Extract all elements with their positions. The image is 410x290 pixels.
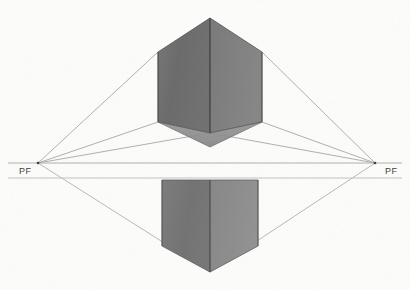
upper-cube-right-face [210,18,262,133]
vanishing-point-left-marker [37,162,40,165]
lower-cube [162,180,258,272]
perspective-construction-svg [0,0,410,290]
vanishing-point-left-label: PF [19,166,31,176]
vanishing-point-right-marker [374,162,377,165]
upper-cube [158,18,262,147]
upper-cube-left-face [158,18,210,133]
perspective-drawing-canvas: PF PF [0,0,410,290]
lower-cube-left-face [162,180,210,272]
vanishing-point-right-label: PF [385,166,397,176]
lower-cube-right-face [210,180,258,272]
